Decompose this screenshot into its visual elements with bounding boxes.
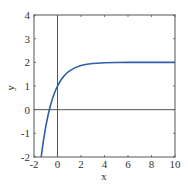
x-tick-label: 10	[170, 158, 182, 170]
x-tick-label: 4	[102, 158, 108, 170]
x-tick-label: 2	[78, 158, 84, 170]
x-tick-label: -2	[29, 158, 38, 170]
x-tick-label: 0	[55, 158, 61, 170]
y-tick-label: 3	[25, 33, 31, 45]
y-tick-label: 4	[25, 9, 31, 21]
x-tick-label: 8	[149, 158, 155, 170]
y-tick-label: -2	[21, 151, 30, 163]
x-tick-label: 6	[125, 158, 131, 170]
reference-lines	[34, 15, 175, 157]
axis-ticks	[34, 15, 175, 157]
line-chart: -20246810 -2-101234 x y	[0, 0, 188, 184]
y-tick-labels: -2-101234	[21, 9, 31, 163]
y-tick-label: 2	[25, 56, 31, 68]
x-tick-labels: -20246810	[29, 158, 181, 170]
y-axis-label: y	[4, 85, 16, 91]
x-axis-label: x	[101, 170, 107, 182]
axes-frame	[34, 15, 175, 157]
y-tick-label: 0	[25, 104, 31, 116]
y-tick-label: 1	[25, 80, 31, 92]
y-tick-label: -1	[21, 127, 30, 139]
